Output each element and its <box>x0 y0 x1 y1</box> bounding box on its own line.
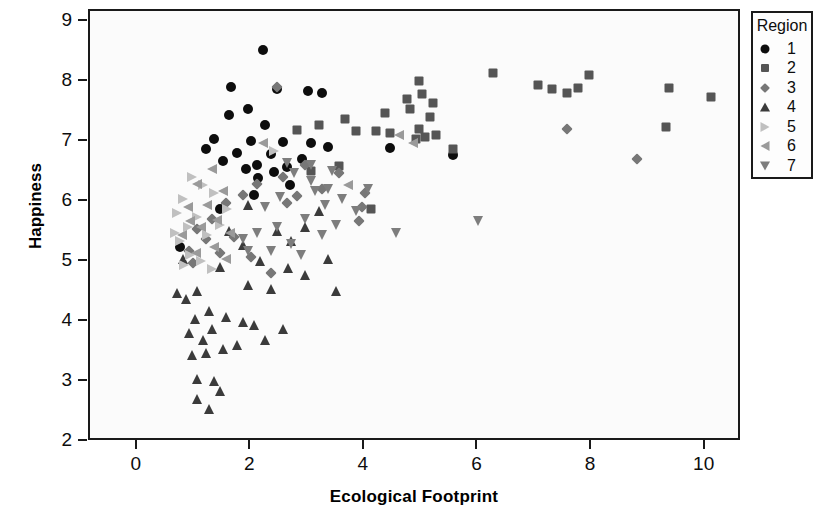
data-point-region-7 <box>320 200 330 210</box>
data-point-region-6 <box>221 254 231 264</box>
data-point-region-7 <box>286 239 296 249</box>
data-point-region-4 <box>300 270 310 280</box>
data-point-region-2 <box>661 122 670 131</box>
data-point-region-6 <box>196 222 206 232</box>
data-point-region-6 <box>218 186 228 196</box>
y-tick <box>78 199 87 201</box>
data-point-region-2 <box>315 121 324 130</box>
data-point-region-2 <box>380 109 389 118</box>
data-point-region-2 <box>448 145 457 154</box>
data-point-region-6 <box>185 216 195 226</box>
x-tick-label: 10 <box>693 453 714 475</box>
plot-area <box>88 9 740 440</box>
data-point-region-7 <box>391 228 401 238</box>
x-axis-title: Ecological Footprint <box>88 487 740 507</box>
data-point-region-3 <box>561 123 572 134</box>
data-point-region-2 <box>417 89 426 98</box>
y-tick-label: 7 <box>46 129 72 151</box>
data-point-region-6 <box>394 130 404 140</box>
data-point-region-3 <box>632 153 643 164</box>
data-point-region-4 <box>215 386 225 396</box>
data-point-region-4 <box>266 284 276 294</box>
legend-label: 3 <box>787 79 796 97</box>
x-tick-label: 6 <box>471 453 482 475</box>
data-point-region-2 <box>548 85 557 94</box>
data-point-region-7 <box>300 214 310 224</box>
legend: Region 1234567 <box>751 11 813 179</box>
data-point-region-1 <box>260 120 270 130</box>
data-point-region-2 <box>431 130 440 139</box>
data-point-region-4 <box>172 288 182 298</box>
data-point-region-1 <box>285 180 295 190</box>
data-point-region-6 <box>408 138 418 148</box>
y-tick <box>78 379 87 381</box>
data-point-region-2 <box>534 80 543 89</box>
data-point-region-7 <box>310 186 320 196</box>
data-point-region-4 <box>207 324 217 334</box>
data-point-region-6 <box>202 200 212 210</box>
data-point-region-4 <box>323 254 333 264</box>
data-point-region-1 <box>249 190 259 200</box>
data-point-region-7 <box>473 216 483 226</box>
data-point-region-4 <box>238 317 248 327</box>
data-point-region-2 <box>414 124 423 133</box>
data-point-region-7 <box>282 158 292 168</box>
data-point-region-7 <box>266 246 276 256</box>
data-point-region-5 <box>172 208 182 218</box>
legend-item-2[interactable]: 2 <box>753 59 811 78</box>
y-tick-label: 8 <box>46 69 72 91</box>
y-tick <box>78 79 87 81</box>
data-point-region-4 <box>201 348 211 358</box>
data-point-region-3 <box>237 189 248 200</box>
data-point-region-7 <box>296 250 306 260</box>
x-tick <box>589 440 591 449</box>
data-point-region-7 <box>351 206 361 216</box>
data-point-region-4 <box>192 374 202 384</box>
data-point-region-1 <box>317 88 327 98</box>
data-point-region-2 <box>573 83 582 92</box>
x-tick <box>135 440 137 449</box>
y-tick-label: 6 <box>46 189 72 211</box>
data-point-region-7 <box>323 184 333 194</box>
data-point-region-1 <box>232 148 242 158</box>
legend-label: 7 <box>787 157 796 175</box>
y-tick <box>78 139 87 141</box>
data-point-region-1 <box>201 144 211 154</box>
data-point-region-5 <box>179 260 189 270</box>
data-point-region-4 <box>204 404 214 414</box>
data-point-region-1 <box>303 86 313 96</box>
y-tick <box>78 19 87 21</box>
data-point-region-4 <box>255 256 265 266</box>
data-point-region-7 <box>337 194 347 204</box>
data-point-region-7 <box>272 222 282 232</box>
data-point-region-7 <box>331 220 341 230</box>
data-point-region-4 <box>192 286 202 296</box>
data-point-region-1 <box>385 143 395 153</box>
y-tick <box>78 439 87 441</box>
legend-item-5[interactable]: 5 <box>753 117 811 136</box>
data-point-region-4 <box>209 376 219 386</box>
data-point-region-1 <box>278 137 288 147</box>
data-point-region-1 <box>258 45 268 55</box>
data-point-region-4 <box>204 306 214 316</box>
legend-swatch-triangle-right-icon <box>761 122 770 132</box>
legend-item-7[interactable]: 7 <box>753 156 811 175</box>
data-point-region-4 <box>187 350 197 360</box>
data-point-region-4 <box>192 394 202 404</box>
legend-item-4[interactable]: 4 <box>753 98 811 117</box>
data-point-region-6 <box>212 215 222 225</box>
data-point-region-1 <box>209 134 219 144</box>
data-point-region-7 <box>238 234 248 244</box>
data-point-region-7 <box>260 202 270 212</box>
data-point-region-1 <box>306 138 316 148</box>
y-tick <box>78 319 87 321</box>
data-point-region-7 <box>306 160 316 170</box>
data-point-region-7 <box>327 166 337 176</box>
legend-item-3[interactable]: 3 <box>753 78 811 97</box>
data-point-region-2 <box>341 115 350 124</box>
data-point-region-2 <box>403 94 412 103</box>
legend-item-6[interactable]: 6 <box>753 137 811 156</box>
legend-item-1[interactable]: 1 <box>753 39 811 58</box>
data-point-region-6 <box>192 179 202 189</box>
y-tick-label: 5 <box>46 249 72 271</box>
